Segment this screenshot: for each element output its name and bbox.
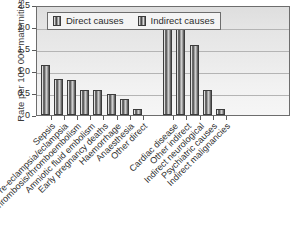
y-tick-label: 0	[0, 110, 30, 120]
x-tick-mark	[130, 116, 131, 120]
legend-swatch-direct-icon	[53, 16, 61, 26]
plot-area: Direct causes Indirect causes	[36, 6, 290, 116]
x-tick-mark	[64, 116, 65, 120]
chart-figure: Rate per 100 000 maternities 00.51.01.52…	[0, 0, 301, 250]
bar	[107, 94, 116, 115]
y-tick-label: 2.0	[0, 22, 30, 32]
bar	[216, 109, 225, 115]
legend-item-direct-causes: Direct causes	[53, 15, 124, 26]
y-axis-title: Rate per 100 000 maternities	[15, 0, 26, 126]
x-tick-mark	[186, 116, 187, 120]
y-tick-label: 1.5	[0, 44, 30, 54]
x-tick-mark	[117, 116, 118, 120]
x-tick-mark	[51, 116, 52, 120]
bar	[190, 45, 199, 115]
bar	[203, 90, 212, 115]
bar	[176, 21, 185, 115]
bar	[41, 65, 50, 115]
legend-label-indirect: Indirect causes	[151, 15, 215, 26]
bar	[93, 90, 102, 115]
legend-swatch-indirect-icon	[138, 16, 146, 26]
x-tick-mark	[213, 116, 214, 120]
x-tick-mark	[90, 116, 91, 120]
y-tick-label: 0.5	[0, 88, 30, 98]
y-tick-label: 2.5	[0, 0, 30, 10]
x-tick-mark	[103, 116, 104, 120]
y-tick-label: 1.0	[0, 66, 30, 76]
legend-label-direct: Direct causes	[66, 15, 124, 26]
x-tick-mark	[143, 116, 144, 120]
legend: Direct causes Indirect causes	[47, 12, 221, 30]
bar	[120, 99, 129, 115]
bar	[67, 80, 76, 115]
x-tick-mark	[77, 116, 78, 120]
legend-item-indirect-causes: Indirect causes	[138, 15, 215, 26]
bar	[133, 109, 142, 115]
x-tick-mark	[200, 116, 201, 120]
bar	[80, 90, 89, 115]
x-tick-mark	[173, 116, 174, 120]
bar	[54, 79, 63, 115]
x-tick-mark	[226, 116, 227, 120]
